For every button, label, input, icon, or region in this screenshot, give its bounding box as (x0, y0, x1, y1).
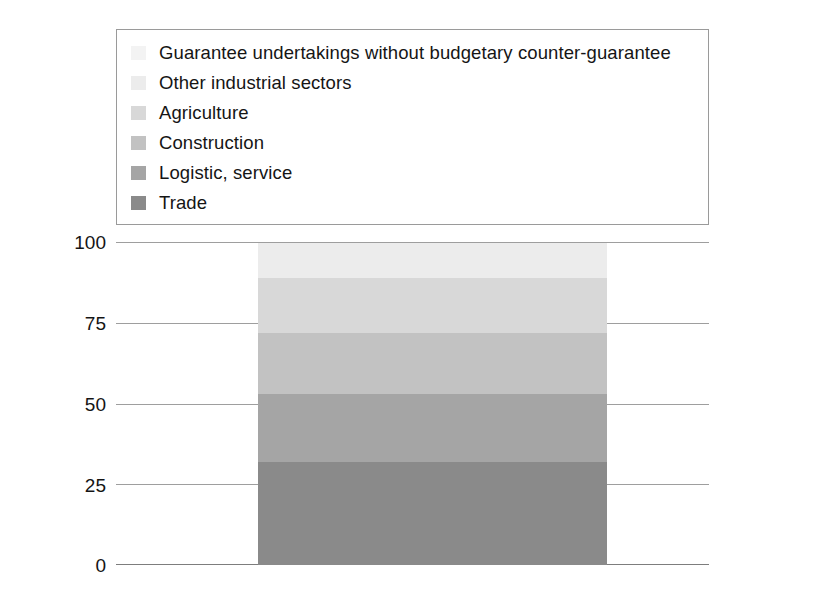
chart-legend: Guarantee undertakings without budgetary… (116, 29, 709, 225)
y-tick-label: 50 (40, 395, 106, 414)
legend-item-label: Other industrial sectors (159, 73, 352, 93)
y-tick-label: 0 (40, 556, 106, 575)
bar-segment[interactable] (258, 278, 607, 333)
bar-segment[interactable] (258, 333, 607, 394)
legend-item-label: Guarantee undertakings without budgetary… (159, 43, 671, 63)
bar-segment[interactable] (258, 243, 607, 278)
plot-area (116, 242, 709, 565)
legend-item: Construction (131, 128, 708, 158)
y-tick-label: 100 (40, 233, 106, 252)
legend-item-label: Agriculture (159, 103, 249, 123)
legend-item-label: Trade (159, 193, 207, 213)
bar-segment[interactable] (258, 462, 607, 565)
legend-swatch-icon (131, 136, 146, 150)
bar-segment[interactable] (258, 394, 607, 462)
legend-item: Trade (131, 188, 708, 218)
legend-swatch-icon (131, 166, 146, 180)
legend-item-label: Logistic, service (159, 163, 292, 183)
legend-item-label: Construction (159, 133, 264, 153)
legend-swatch-icon (131, 196, 146, 210)
y-axis: 100 75 50 25 0 (36, 242, 106, 565)
legend-item: Logistic, service (131, 158, 708, 188)
legend-swatch-icon (131, 106, 146, 120)
legend-item: Agriculture (131, 98, 708, 128)
legend-item: Guarantee undertakings without budgetary… (131, 38, 708, 68)
legend-item: Other industrial sectors (131, 68, 708, 98)
y-tick-label: 25 (40, 476, 106, 495)
stacked-bar-chart: Guarantee undertakings without budgetary… (0, 0, 819, 593)
legend-swatch-icon (131, 46, 146, 60)
legend-swatch-icon (131, 76, 146, 90)
y-tick-label: 75 (40, 314, 106, 333)
stacked-bar-column[interactable] (258, 243, 607, 565)
